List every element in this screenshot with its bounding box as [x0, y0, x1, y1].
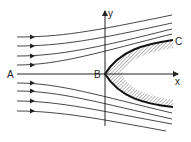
- lower-streamlines: [17, 83, 172, 131]
- label-a: A: [7, 69, 14, 80]
- arrow-right-icon: [30, 44, 35, 49]
- streamline: [17, 15, 172, 37]
- arrow-right-icon: [30, 63, 35, 68]
- arrow-right-icon: [30, 54, 35, 59]
- arrow-right-icon: [30, 81, 35, 86]
- arrow-right-icon: [30, 109, 35, 114]
- streamline: [17, 101, 172, 124]
- streamline: [17, 111, 166, 131]
- flow-diagram: A B C x y: [0, 0, 191, 142]
- upper-streamlines: [17, 15, 172, 65]
- arrow-right-icon: [30, 89, 35, 94]
- label-b: B: [94, 69, 101, 80]
- arrow-right-icon: [30, 35, 35, 40]
- label-x-axis: x: [175, 76, 180, 87]
- arrow-right-icon: [30, 99, 35, 104]
- label-y-axis: y: [108, 8, 113, 19]
- label-c: C: [175, 36, 182, 47]
